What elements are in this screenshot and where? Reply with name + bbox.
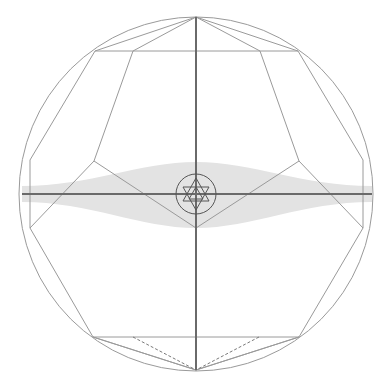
bottom-fan-line: [196, 337, 299, 370]
top-fan-line: [196, 17, 260, 51]
diagram-canvas: [0, 0, 385, 386]
bottom-dashed-line: [133, 337, 196, 370]
bottom-fan-line: [93, 337, 196, 370]
bottom-dashed-line: [196, 337, 259, 370]
geometric-diagram: [0, 0, 385, 386]
top-fan-line: [133, 17, 196, 51]
